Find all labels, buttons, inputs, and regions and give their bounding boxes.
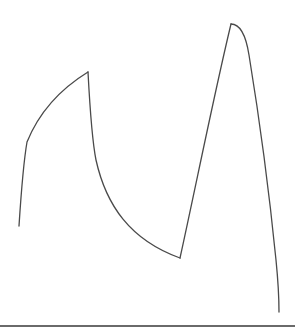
right-rise-segment	[180, 24, 231, 258]
right-fall-segment	[231, 24, 279, 312]
baseline-rule	[0, 325, 295, 327]
left-fall-segment	[88, 72, 180, 258]
hand-drawn-curve	[0, 0, 295, 332]
left-rise-segment	[19, 72, 88, 226]
